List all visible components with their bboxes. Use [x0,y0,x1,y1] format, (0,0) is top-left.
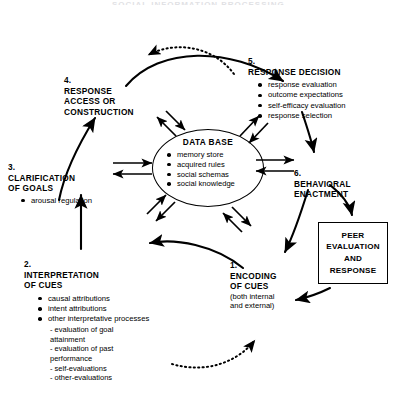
dashed-feedback-node5-to-node4 [148,47,234,74]
bullet-icon [258,83,262,87]
node-5-title-text: RESPONSE DECISION [248,67,341,77]
database-ellipse: DATA BASE memory store acquired rules so… [152,129,264,207]
node-3-title: 3. CLARIFICATION OF GOALS [8,152,148,194]
list-item: outcome expectations [257,90,346,100]
list-item: memory store [166,150,263,160]
node-1-encoding-of-cues: 1. ENCODING OF CUES (both internal and e… [230,250,316,311]
node-4-number: 4. [64,75,71,85]
list-item-label: arousal regulation [31,196,92,205]
list-item-label: social schemas [177,170,229,179]
node-6-title-text: BEHAVIORAL ENACTMENT [294,179,351,199]
node-2-subitem-list: - evaluation of goal attainment - evalua… [50,325,209,383]
node-5-title: 5. RESPONSE DECISION [248,46,346,77]
list-item: social knowledge [166,179,263,189]
node-2-interpretation-of-cues: 2. INTERPRETATION OF CUES causal attribu… [24,249,209,383]
link-node2-to-database-in [147,195,166,214]
node-1-number: 1. [230,260,237,270]
node-6-number: 6. [294,168,301,178]
node-5-number: 5. [248,56,255,66]
node-6-title: 6. BEHAVIORAL ENACTMENT [294,158,398,200]
list-item-label: outcome expectations [268,90,343,99]
bullet-icon [21,199,25,203]
list-item-label: memory store [177,150,223,159]
bullet-icon [38,297,42,301]
node-3-clarification-of-goals: 3. CLARIFICATION OF GOALS arousal regula… [8,152,148,206]
node-1-subtitle: (both internal and external) [230,292,316,311]
node-1-title-text: ENCODING OF CUES [230,271,277,291]
link-node1-to-database-out [223,213,242,232]
node-3-number: 3. [8,162,15,172]
bullet-icon [38,307,42,311]
bullet-icon [167,182,171,186]
link-database-to-node4-out [157,117,176,136]
list-item-label: response evaluation [268,80,337,89]
list-item-label: acquired rules [177,160,225,169]
list-item: arousal regulation [20,196,148,206]
node-6-behavioral-enactment: 6. BEHAVIORAL ENACTMENT [294,158,398,200]
database-item-list: memory store acquired rules social schem… [166,150,263,189]
list-item: response evaluation [257,80,346,90]
link-node4-to-database-in [166,111,185,130]
node-2-item-list: causal attributions intent attributions … [37,294,209,325]
node-4-response-access-or-construction: 4. RESPONSE ACCESS OR CONSTRUCTION [64,65,159,117]
bullet-icon [38,317,42,321]
bullet-icon [258,94,262,98]
node-5-item-list: response evaluation outcome expectations… [257,80,346,121]
bullet-icon [258,104,262,108]
bullet-icon [167,163,171,167]
list-item: - evaluation of goal attainment [50,325,209,344]
bullet-icon [167,153,171,157]
link-database-to-node2-out [156,202,175,221]
list-item-label: social knowledge [177,179,235,188]
node-2-title: 2. INTERPRETATION OF CUES [24,249,209,291]
list-item-label: self-efficacy evaluation [268,101,346,110]
list-item-label: intent attributions [48,304,107,313]
list-item: acquired rules [166,160,263,170]
list-item-label: causal attributions [48,294,110,303]
list-item: - self-evaluations [50,364,209,374]
link-database-to-node1-in [232,207,251,226]
list-item-label: other interpretative processes [48,314,149,323]
bullet-icon [258,114,262,118]
figure-canvas: SOCIAL INFORMATION PROCESSING [0,0,401,398]
list-item: self-efficacy evaluation [257,101,346,111]
node-3-title-text: CLARIFICATION OF GOALS [8,173,75,193]
node-2-number: 2. [24,259,31,269]
database-title: DATA BASE [153,137,263,147]
node-1-title: 1. ENCODING OF CUES [230,250,316,292]
node-5-response-decision: 5. RESPONSE DECISION response evaluation… [248,46,346,121]
bullet-icon [167,173,171,177]
list-item: - evaluation of past performance [50,344,209,363]
list-item: other interpretative processes [37,314,209,324]
list-item: - other-evaluations [50,373,209,383]
node-3-item-list: arousal regulation [20,196,148,206]
list-item: intent attributions [37,304,209,314]
list-item-label: response selection [268,111,332,120]
peer-evaluation-and-response-box: PEER EVALUATION AND RESPONSE [318,222,388,284]
node-4-title: 4. RESPONSE ACCESS OR CONSTRUCTION [64,65,159,117]
node-2-title-text: INTERPRETATION OF CUES [24,270,99,290]
list-item: causal attributions [37,294,209,304]
list-item: response selection [257,111,346,121]
list-item: social schemas [166,170,263,180]
node-4-title-text: RESPONSE ACCESS OR CONSTRUCTION [64,86,134,117]
